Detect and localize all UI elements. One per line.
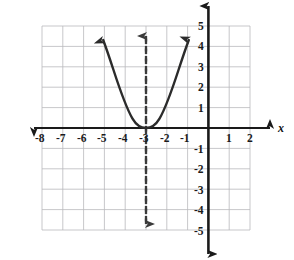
x-tick-label: -1 — [180, 133, 190, 145]
x-tick-label: -7 — [56, 133, 66, 145]
x-tick-label: -2 — [160, 133, 170, 145]
x-tick-label: 2 — [247, 133, 253, 145]
y-tick-label: -2 — [194, 164, 204, 176]
y-tick-label: 2 — [198, 82, 204, 94]
y-tick-label: 4 — [198, 41, 204, 53]
x-axis-label: x — [278, 122, 284, 134]
y-tick-label: 5 — [198, 21, 204, 33]
y-tick-label: -4 — [194, 205, 204, 217]
x-tick-label: -6 — [77, 133, 87, 145]
x-tick-label: -4 — [118, 133, 128, 145]
y-tick-label: 3 — [198, 62, 204, 74]
x-tick-label: -8 — [35, 133, 45, 145]
y-tick-label: -5 — [194, 226, 204, 238]
x-tick-label: -3 — [139, 133, 149, 145]
y-tick-label: -3 — [194, 185, 204, 197]
x-tick-label: 1 — [226, 133, 232, 145]
graph-figure: -8 -7 -6 -5 -4 -3 -2 -1 1 2 5 4 3 2 1 -1… — [0, 0, 294, 260]
y-tick-label: -1 — [194, 144, 204, 156]
coordinate-plane-svg — [0, 0, 294, 260]
y-tick-label: 1 — [198, 103, 204, 115]
x-tick-label: -5 — [97, 133, 107, 145]
